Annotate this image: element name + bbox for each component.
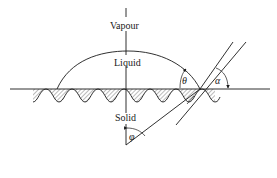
theta-label: θ: [182, 75, 187, 86]
liquid-label: Liquid: [114, 57, 141, 68]
contact-angle-diagram: Vapour Liquid Solid θ α φ: [0, 0, 277, 178]
alpha-label: α: [215, 75, 221, 86]
solid-label: Solid: [115, 112, 136, 123]
vapour-label: Vapour: [110, 20, 140, 31]
solid-hatch-fill: [33, 89, 215, 102]
phi-label: φ: [129, 131, 135, 142]
